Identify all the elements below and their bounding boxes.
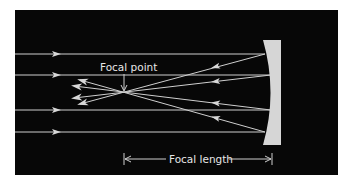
- arrow-left-icon: [71, 94, 83, 102]
- focal-point-label: Focal point: [100, 61, 157, 73]
- arrow-left-icon: [210, 114, 220, 122]
- arrow-left-icon: [71, 82, 83, 90]
- arrow-left-icon: [76, 99, 88, 109]
- incoming-arrowheads: [52, 51, 61, 135]
- focal-length-label: Focal length: [169, 153, 233, 165]
- arrow-left-icon: [76, 76, 88, 86]
- reflected-arrowheads-mid: [210, 63, 220, 122]
- concave-mirror: [263, 40, 281, 145]
- reflected-arrowheads-end: [71, 76, 89, 108]
- focal-point-pointer: [121, 74, 127, 91]
- concave-mirror-diagram: Focal point Focal length: [0, 0, 353, 183]
